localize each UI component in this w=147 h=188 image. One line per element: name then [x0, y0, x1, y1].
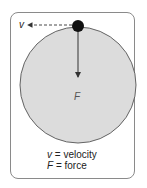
legend-equals: = — [52, 149, 63, 160]
legend-item-velocity: v = velocity — [47, 149, 97, 160]
legend: v = velocity F = force — [47, 149, 97, 171]
legend-item-force: F = force — [47, 160, 97, 171]
legend-meaning: velocity — [63, 149, 96, 160]
ball — [72, 20, 84, 32]
force-label: F — [74, 91, 80, 102]
velocity-label: v — [19, 19, 24, 30]
legend-meaning: force — [65, 160, 87, 171]
legend-equals: = — [53, 160, 64, 171]
